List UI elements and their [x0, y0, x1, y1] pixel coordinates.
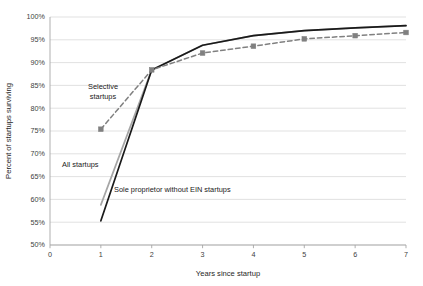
y-tick-label: 80%: [31, 104, 46, 113]
x-axis-tick-marks: [50, 245, 406, 248]
x-tick-label: 5: [302, 250, 306, 259]
annotation-line: startups: [90, 92, 117, 101]
annotation-selective: Selectivestartups: [88, 82, 118, 101]
x-tick-label: 6: [353, 250, 357, 259]
y-tick-label: 60%: [31, 195, 46, 204]
x-axis-tick-labels: 01234567: [48, 250, 408, 259]
y-axis-title: Percent of startups surviving: [4, 83, 13, 179]
data-point-marker: [404, 30, 409, 35]
data-point-marker: [99, 127, 104, 132]
data-point-marker: [149, 68, 154, 73]
y-tick-label: 70%: [31, 149, 46, 158]
y-tick-label: 55%: [31, 218, 46, 227]
y-tick-label: 95%: [31, 35, 46, 44]
x-tick-label: 7: [404, 250, 408, 259]
data-point-marker: [200, 51, 205, 56]
y-tick-label: 65%: [31, 172, 46, 181]
y-tick-label: 85%: [31, 81, 46, 90]
x-tick-label: 2: [150, 250, 154, 259]
x-axis-title: Years since startup: [196, 269, 260, 278]
x-tick-label: 0: [48, 250, 52, 259]
y-tick-label: 75%: [31, 126, 46, 135]
y-tick-label: 100%: [27, 12, 46, 21]
y-tick-label: 90%: [31, 58, 46, 67]
data-point-marker: [302, 37, 307, 42]
data-point-marker: [251, 44, 256, 49]
chart-canvas: 50%55%60%65%70%75%80%85%90%95%100% 01234…: [0, 0, 423, 286]
x-tick-label: 3: [201, 250, 205, 259]
x-tick-label: 1: [99, 250, 103, 259]
y-tick-label: 50%: [31, 240, 46, 249]
annotation-all-startups: All startups: [62, 160, 99, 169]
x-tick-label: 4: [251, 250, 255, 259]
data-point-marker: [353, 33, 358, 38]
y-axis-tick-labels: 50%55%60%65%70%75%80%85%90%95%100%: [27, 12, 46, 249]
annotation-sole-prop: Sole proprietor without EIN startups: [114, 185, 231, 194]
survival-rate-line-chart: 50%55%60%65%70%75%80%85%90%95%100% 01234…: [0, 0, 423, 286]
annotation-line: Selective: [88, 82, 118, 91]
